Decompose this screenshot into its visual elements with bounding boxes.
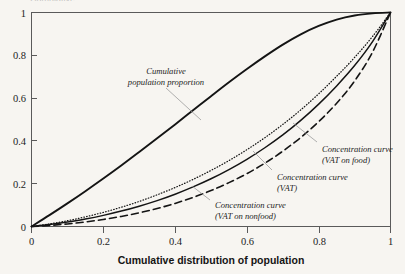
series-concentration-curve-vat-on-food <box>32 13 391 227</box>
annotation-line-2: (VAT on nonfood) <box>215 211 276 221</box>
annotation-line-1: Concentration curve <box>322 144 393 154</box>
lorenz-concentration-curve-chart: 1 0.8 0.6 0.4 0.2 0 0 0.2 0.4 0.6 0.8 1 … <box>0 0 405 274</box>
annotation-line-2: (VAT) <box>277 183 297 193</box>
x-axis-ticks <box>32 227 391 234</box>
x-tick-label: 1 <box>388 236 393 247</box>
annotation-line-2: population proportion <box>127 77 204 87</box>
y-tick-label: 0 <box>21 222 26 233</box>
annotation-concentration-curve-vat-on-food: Concentration curve (VAT on food) <box>322 144 393 165</box>
annotation-concentration-curve-vat-on-nonfood: Concentration curve (VAT on nonfood) <box>215 200 286 221</box>
x-tick-label: 0.2 <box>97 236 110 247</box>
y-tick-labels: 1 0.8 0.6 0.4 0.2 0 <box>13 8 27 233</box>
y-tick-label: 0.2 <box>13 179 26 190</box>
x-tick-labels: 0 0.2 0.4 0.6 0.8 1 <box>29 236 393 247</box>
data-curves <box>32 13 391 227</box>
x-tick-label: 0 <box>29 236 34 247</box>
annotation-cumulative-population-proportion: Cumulative population proportion <box>127 66 204 87</box>
series-concentration-curve-vat-on-nonfood <box>32 13 391 227</box>
plot-frame <box>31 13 391 227</box>
x-axis-title: Cumulative distribution of population <box>118 254 305 266</box>
y-tick-label: 0.4 <box>13 136 27 147</box>
series-cumulative-population-proportion <box>32 13 391 227</box>
x-tick-label: 0.4 <box>169 236 183 247</box>
x-tick-label: 0.8 <box>313 236 326 247</box>
annotation-line-1: Concentration curve <box>215 200 286 210</box>
series-concentration-curve-vat <box>32 13 391 227</box>
annotation-concentration-curve-vat: Concentration curve (VAT) <box>277 172 348 193</box>
annotation-line-1: Cumulative <box>146 66 186 76</box>
y-tick-label: 0.6 <box>13 93 26 104</box>
leader-line-concentration-curve-vat-on-nonfood <box>192 186 210 200</box>
annotation-line-1: Concentration curve <box>277 172 348 182</box>
y-tick-label: 1 <box>21 8 26 19</box>
y-tick-label: 0.8 <box>13 50 26 61</box>
leader-line-cumulative-population-proportion <box>166 88 201 120</box>
x-tick-label: 0.6 <box>241 236 254 247</box>
annotation-line-2: (VAT on food) <box>322 155 370 165</box>
